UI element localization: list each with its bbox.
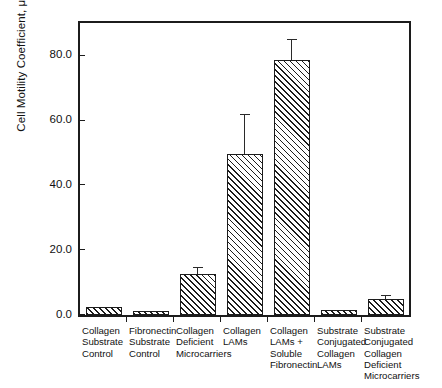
x-axis-category-label: Collagen Deficient Microcarriers xyxy=(176,325,229,359)
y-axis-tick-label-text: 80.0 xyxy=(0,49,72,60)
plot-area xyxy=(80,23,409,315)
y-axis-tick-label-text: 0.0 xyxy=(0,309,72,320)
error-bar-whisker xyxy=(291,39,292,60)
x-axis-category-label: Collagen LAMs + Soluble Fibronectin xyxy=(270,325,323,370)
x-axis-category-label: Substrate Conjugated Collagen Deficient … xyxy=(364,325,417,381)
bar[interactable] xyxy=(321,310,357,315)
bar[interactable] xyxy=(180,274,216,315)
error-bar-whisker xyxy=(244,114,245,155)
bar[interactable] xyxy=(86,307,122,315)
x-axis-tick xyxy=(173,317,174,322)
y-axis-tick-label-text: 60.0 xyxy=(0,114,72,125)
bar[interactable] xyxy=(274,60,310,315)
x-axis-tick xyxy=(220,317,221,322)
error-bar-cap xyxy=(287,39,297,40)
y-axis-tick-label: 60.0 xyxy=(0,114,72,126)
x-axis-category-label: Collagen Substrate Control xyxy=(82,325,135,359)
x-axis-category-label: Fibronectin Substrate Control xyxy=(129,325,182,359)
bar[interactable] xyxy=(133,311,169,315)
x-axis-tick xyxy=(267,317,268,322)
y-axis-tick-label-text: 40.0 xyxy=(0,179,72,190)
x-axis-tick xyxy=(126,317,127,322)
y-axis-tick-label: 80.0 xyxy=(0,49,72,61)
bar[interactable] xyxy=(368,299,404,315)
y-axis-tick-label: 0.0 xyxy=(0,309,72,321)
x-axis-tick xyxy=(361,317,362,322)
error-bar-cap xyxy=(240,114,250,115)
error-bar-whisker xyxy=(197,267,198,274)
error-bar-cap xyxy=(381,295,391,296)
y-axis-tick-label: 20.0 xyxy=(0,244,72,256)
bar-chart-figure: Cell Motility Coefficient, μ, μm2/min 0.… xyxy=(0,0,442,388)
x-axis-category-label: Substrate Conjugated Collagen LAMs xyxy=(317,325,370,370)
x-axis-category-label: Collagen LAMs xyxy=(223,325,276,348)
y-axis-title: Cell Motility Coefficient, μ, μm2/min xyxy=(10,0,32,191)
bar[interactable] xyxy=(227,154,263,315)
error-bar-cap xyxy=(193,267,203,268)
y-axis-tick-label-text: 20.0 xyxy=(0,244,72,255)
y-axis-tick-label: 40.0 xyxy=(0,179,72,191)
y-axis-title-text-before: Cell Motility Coefficient, μ, μm xyxy=(15,0,27,132)
x-axis-tick xyxy=(314,317,315,322)
